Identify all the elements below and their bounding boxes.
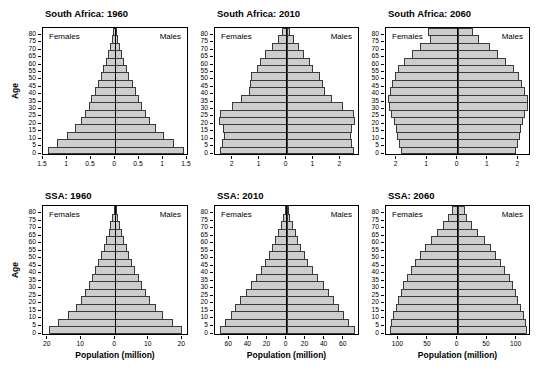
y-tick-label: 70 — [201, 223, 208, 231]
pyramid-bar-female-25-29 — [401, 289, 459, 298]
y-tick-label: 30 — [372, 104, 379, 112]
pyramid-bar-female-25-29 — [85, 289, 116, 298]
y-tick-mark — [38, 145, 41, 146]
pyramid-bar-female-30-34 — [232, 102, 288, 110]
pyramid-bar-male-40-44 — [287, 87, 325, 95]
y-tick-label: 15 — [29, 306, 36, 314]
y-tick-label: 75 — [372, 216, 379, 224]
pyramid-bar-male-75-79 — [287, 35, 294, 43]
y-tick-mark — [38, 302, 41, 303]
pyramid-bar-male-75-79 — [458, 214, 468, 223]
y-tick-mark — [38, 93, 41, 94]
pyramid-bar-male-15-19 — [287, 304, 340, 313]
y-tick-mark — [38, 86, 41, 87]
pyramid-bar-female-50-54 — [251, 72, 288, 80]
y-tick-mark — [210, 49, 213, 50]
x-tick-label: 2 — [394, 159, 398, 168]
pyramid-bar-female-0-4 — [48, 147, 116, 154]
pyramid-bar-female-60-64 — [260, 58, 287, 66]
pyramid-bar-female-45-49 — [392, 80, 458, 88]
y-tick-mark — [210, 265, 213, 266]
y-tick-label: 50 — [372, 253, 379, 261]
y-tick-label: 70 — [372, 45, 379, 53]
pyramid-bar-male-55-59 — [115, 65, 127, 73]
pyramid-bar-male-45-49 — [458, 259, 502, 268]
pyramid-bar-female-40-44 — [261, 266, 288, 275]
y-tick-label: 80 — [372, 30, 379, 38]
y-tick-label: 65 — [372, 231, 379, 239]
pyramid-bar-male-55-59 — [458, 65, 514, 73]
x-axis-ticks: 1.510.500.511.5 — [42, 156, 188, 172]
pyramid-bar-female-25-29 — [220, 110, 288, 118]
pyramid-bar-female-30-34 — [251, 281, 288, 290]
y-tick-label: 25 — [372, 291, 379, 299]
pyramid-bar-female-5-9 — [222, 139, 287, 147]
pyramid-bar-male-75-79 — [115, 35, 118, 43]
y-tick-mark — [38, 115, 41, 116]
pyramid-bar-male-20-24 — [287, 117, 356, 125]
pyramid-bar-female-40-44 — [249, 87, 288, 95]
y-tick-label: 0 — [204, 329, 208, 337]
y-tick-mark — [210, 227, 213, 228]
y-axis-label-age: Age — [10, 262, 20, 278]
y-tick-label: 45 — [372, 261, 379, 269]
y-tick-label: 15 — [29, 126, 36, 134]
y-tick-label: 55 — [372, 246, 379, 254]
y-tick-label: 35 — [201, 276, 208, 284]
y-tick-label: 60 — [29, 238, 36, 246]
y-tick-mark — [381, 108, 384, 109]
y-tick-mark — [210, 34, 213, 35]
y-tick-mark — [38, 101, 41, 102]
y-tick-mark — [210, 64, 213, 65]
y-tick-label: 65 — [372, 52, 379, 60]
pyramid-bar-female-35-39 — [241, 95, 287, 103]
pyramid-bar-male-35-39 — [458, 95, 528, 103]
y-tick-label: 30 — [372, 283, 379, 291]
pyramid-bar-male-15-19 — [287, 124, 352, 132]
pyramid-bar-female-0-4 — [220, 326, 288, 334]
males-label: Males — [331, 210, 352, 219]
pyramid-bar-male-25-29 — [287, 110, 355, 118]
pyramid-bar-male-5-9 — [115, 319, 173, 328]
x-axis-label: Population (million) — [214, 350, 359, 360]
pyramid-bar-female-15-19 — [223, 124, 288, 132]
y-tick-label: 10 — [29, 134, 36, 142]
zero-axis-line — [115, 206, 116, 334]
pyramid-bar-male-65-69 — [287, 229, 296, 238]
males-label: Males — [502, 32, 523, 41]
pyramid-bar-male-40-44 — [458, 87, 526, 95]
y-tick-label: 25 — [372, 111, 379, 119]
pyramid-bar-male-35-39 — [287, 95, 333, 103]
y-tick-label: 5 — [32, 321, 36, 329]
pyramid-bar-female-50-54 — [269, 251, 288, 260]
x-tick-label: 2 — [338, 159, 342, 168]
y-tick-mark — [210, 317, 213, 318]
x-tick-label: 1 — [485, 159, 489, 168]
zero-axis-line — [286, 28, 287, 154]
pyramid-bar-female-30-34 — [403, 281, 458, 290]
y-tick-label: 30 — [29, 283, 36, 291]
y-tick-mark — [210, 235, 213, 236]
y-tick-label: 5 — [204, 321, 208, 329]
females-label: Females — [221, 32, 252, 41]
y-tick-mark — [38, 242, 41, 243]
y-tick-label: 45 — [201, 261, 208, 269]
y-axis-ticks: 05101520253035404550556065707580 — [193, 27, 214, 155]
pyramid-bar-male-75-79 — [458, 35, 480, 43]
y-tick-label: 45 — [372, 82, 379, 90]
pyramid-plot: Females Males — [42, 205, 188, 335]
y-tick-mark — [38, 280, 41, 281]
chart-title: SSA: 2010 — [217, 190, 263, 201]
y-tick-mark — [210, 287, 213, 288]
y-tick-label: 0 — [204, 149, 208, 157]
zero-axis-line — [457, 206, 458, 334]
population-pyramids-figure: South Africa: 1960 Age 05101520253035404… — [0, 0, 542, 373]
pyramid-bar-male-50-54 — [458, 251, 497, 260]
y-tick-label: 20 — [372, 119, 379, 127]
y-tick-label: 70 — [29, 223, 36, 231]
pyramid-bar-female-25-29 — [246, 289, 288, 298]
y-tick-label: 20 — [372, 298, 379, 306]
x-tick-label: 0.5 — [85, 159, 94, 168]
pyramid-bar-female-0-4 — [220, 147, 287, 154]
y-axis-ticks: 05101520253035404550556065707580 — [364, 205, 385, 335]
